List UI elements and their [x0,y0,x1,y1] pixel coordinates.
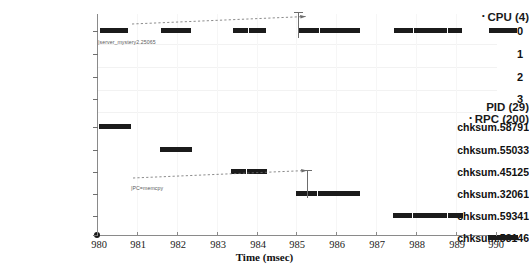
x-tick [296,232,297,236]
event-bar[interactable] [413,213,448,218]
event-bar[interactable] [160,147,192,152]
x-tick [257,232,258,236]
x-tick [137,232,138,236]
x-tick [97,232,98,236]
gridline-horizontal [98,67,497,68]
track-label-chksum-32061[interactable]: chksum.32061 [437,189,529,200]
gridline-vertical [137,14,138,235]
cursor-cap-cpu [294,12,303,13]
gridline-horizontal [98,112,497,113]
x-tick-label-985: 985 [289,239,305,250]
event-bar[interactable] [233,28,249,33]
y-tick-label-cpu-1: 1 [517,49,523,60]
x-tick [376,232,377,236]
x-axis-title: Time (msec) [0,251,529,263]
gridline-vertical [177,14,178,235]
x-tick-label-982: 982 [170,239,186,250]
event-bar[interactable] [100,28,128,33]
x-tick [336,232,337,236]
annotation-label-cpu: |server_mystery2.25065 [98,39,156,45]
event-bar[interactable] [448,28,462,33]
gridline-horizontal [98,90,497,91]
x-tick-label-980: 980 [91,239,107,250]
gridline-vertical [416,14,417,235]
y-tick-cpu-3 [93,99,98,100]
x-tick-label-983: 983 [210,239,226,250]
event-bar[interactable] [394,28,414,33]
x-tick [217,232,218,236]
gridline-vertical [376,14,377,235]
event-bar[interactable] [393,213,413,218]
x-tick-label-989: 989 [449,239,465,250]
event-bar[interactable] [247,169,267,174]
group-label-cpu: CPU (4) [441,11,529,24]
trace-viewer-canvas: CPU (4) PID (29) RPC (200) 0 1 2 3 chksu… [0,0,529,266]
x-tick [416,232,417,236]
cursor-cap-rpc [303,170,312,171]
x-tick-label-990: 990 [488,239,504,250]
x-tick [496,232,497,236]
y-tick-chksum-58791 [93,127,98,128]
gridline-horizontal [98,44,497,45]
y-tick-cpu-1 [93,54,98,55]
y-tick-chksum-55033 [93,150,98,151]
y-tick-label-cpu-0: 0 [517,26,523,37]
event-bar[interactable] [298,28,320,33]
gridline-vertical [296,14,297,235]
x-tick-label-981: 981 [130,239,146,250]
y-axis-line [97,14,98,236]
x-tick-label-986: 986 [329,239,345,250]
event-bar[interactable] [320,28,360,33]
cursor-line-rpc[interactable] [307,170,308,198]
y-tick-chksum-45125 [93,172,98,173]
event-bar[interactable] [489,28,517,33]
annotation-label-rpc: |PC=memcpy [131,185,163,191]
x-tick [177,232,178,236]
track-label-chksum-58791[interactable]: chksum.58791 [437,122,529,133]
x-tick-label-987: 987 [369,239,385,250]
x-tick-label-988: 988 [409,239,425,250]
y-tick-label-cpu-2: 2 [517,72,523,83]
y-tick-label-cpu-3: 3 [517,94,523,105]
annotation-arrow-rpc-icon [131,167,316,181]
track-label-chksum-55033[interactable]: chksum.55033 [437,145,529,156]
group-label-pid: PID (29) [441,102,529,114]
x-tick-label-984: 984 [250,239,266,250]
event-bar[interactable] [414,28,448,33]
y-tick-cpu-0 [93,31,98,32]
event-bar[interactable] [231,169,247,174]
gridline-vertical [257,14,258,235]
event-bar[interactable] [249,28,266,33]
x-tick [456,232,457,236]
group-label-cpu-text: CPU (4) [487,11,529,23]
event-bar[interactable] [161,28,191,33]
bullet-icon [481,11,485,15]
y-tick-chksum-59341 [93,216,98,217]
y-tick-chksum-32061 [93,194,98,195]
track-label-chksum-45125[interactable]: chksum.45125 [437,167,529,178]
annotation-arrow-cpu-icon [130,13,315,27]
event-bar[interactable] [448,213,463,218]
gridline-vertical [336,14,337,235]
event-bar[interactable] [318,191,360,196]
y-tick-cpu-2 [93,77,98,78]
event-bar[interactable] [99,124,131,129]
bullet-icon [469,113,473,117]
gridline-vertical [217,14,218,235]
cursor-line-cpu[interactable] [298,12,299,38]
